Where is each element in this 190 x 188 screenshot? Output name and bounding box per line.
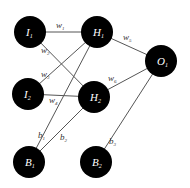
node-h2: H2 (78, 81, 110, 113)
node-h1: H1 (81, 16, 113, 48)
edge-label-w2: w2 (41, 45, 50, 56)
node-o1: O1 (145, 45, 177, 77)
edge-label-w3: w3 (41, 69, 50, 80)
edge-label-b3: b3 (109, 136, 117, 147)
edge-label-b1: b1 (38, 130, 45, 141)
node-circle (12, 78, 44, 110)
node-circle (14, 16, 46, 48)
node-i2: I2 (12, 78, 44, 110)
edge-b2-o1 (96, 61, 161, 162)
node-b2: B2 (80, 146, 112, 178)
neural-network-diagram: I1I2B1H1H2B2O1 w1w2w3w4w5w6b1b2b3 (0, 0, 190, 188)
nodes: I1I2B1H1H2B2O1 (12, 16, 177, 178)
edge-label-w5: w5 (123, 32, 132, 43)
node-i1: I1 (14, 16, 46, 48)
node-b1: B1 (13, 146, 45, 178)
edge-label-b2: b2 (60, 132, 68, 143)
edge-label-w1: w1 (56, 20, 65, 31)
edge-label-w6: w6 (108, 73, 117, 84)
edge-label-w4: w4 (49, 95, 58, 106)
